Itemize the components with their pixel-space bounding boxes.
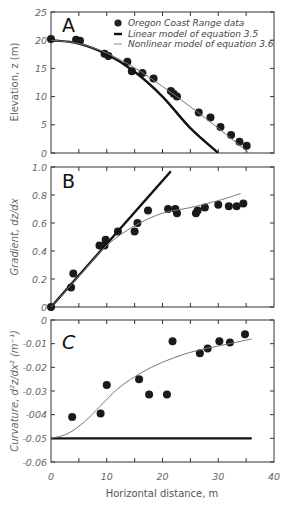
data-point xyxy=(225,202,233,210)
data-point xyxy=(103,381,111,389)
nonlinear-model-curve xyxy=(51,40,249,153)
x-tick-label: 30 xyxy=(212,471,224,482)
linear-model-line xyxy=(51,40,218,153)
y-tick-label: 0 xyxy=(41,148,47,159)
y-axis-label-curvature: Curvature, d²z/dx² (m⁻¹) xyxy=(9,330,20,452)
data-point xyxy=(97,409,105,417)
y-tick-label: 0.4 xyxy=(32,246,47,257)
y-tick-label: 10 xyxy=(35,91,47,102)
y-tick-label: -0.03 xyxy=(22,386,47,397)
x-tick-label: 40 xyxy=(268,471,280,482)
data-point xyxy=(69,269,77,277)
y-tick-label: 25 xyxy=(35,7,47,18)
data-point xyxy=(163,391,171,399)
data-point xyxy=(131,227,139,235)
legend: Oregon Coast Range data Linear model of … xyxy=(114,18,274,49)
y-tick-label: 0 xyxy=(41,302,47,313)
y-tick-label: -0.06 xyxy=(22,457,47,468)
y-tick-label: 0.2 xyxy=(32,274,47,285)
panel-label-c: C xyxy=(62,331,76,353)
data-point xyxy=(68,413,76,421)
y-tick-label: 0.8 xyxy=(32,190,47,201)
data-point xyxy=(194,206,202,214)
data-point xyxy=(214,201,222,209)
x-axis-label: Horizontal distance, m xyxy=(106,488,219,499)
data-point xyxy=(235,138,243,146)
plot-frame xyxy=(51,167,274,307)
y-tick-label: 1.0 xyxy=(32,162,47,173)
data-point xyxy=(135,375,143,383)
y-tick-label: -0.05 xyxy=(22,433,47,444)
legend-linear-label: Linear model of equation 3.5 xyxy=(128,29,258,39)
x-tick-label: 20 xyxy=(156,471,168,482)
x-tick-label: 10 xyxy=(101,471,113,482)
legend-nonlinear-label: Nonlinear model of equation 3.6 xyxy=(128,39,274,49)
nonlinear-model-curve xyxy=(51,339,252,438)
figure: 0510152025 00.20.40.60.81.0 -0.06-0.05-0… xyxy=(0,0,282,505)
y-tick-label: -0.02 xyxy=(22,362,47,373)
y-tick-label: 20 xyxy=(35,35,47,46)
y-tick-label: 15 xyxy=(35,63,47,74)
data-point xyxy=(227,131,235,139)
legend-data-label: Oregon Coast Range data xyxy=(128,18,244,28)
y-axis-label-gradient: Gradient, dz/dx xyxy=(9,198,20,275)
y-tick-label: 0 xyxy=(41,315,47,326)
panel-label-a: A xyxy=(62,14,75,36)
data-point xyxy=(215,337,223,345)
y-tick-label: -004 xyxy=(25,409,47,420)
panel-label-b: B xyxy=(62,170,75,192)
data-point xyxy=(47,35,55,43)
y-axis-label-elevation: Elevation, z (m) xyxy=(9,43,20,122)
data-point xyxy=(239,199,247,207)
y-tick-label: -0.01 xyxy=(22,338,47,349)
data-point xyxy=(144,206,152,214)
x-tick-label: 0 xyxy=(48,471,54,482)
data-point xyxy=(169,337,177,345)
data-point xyxy=(145,391,153,399)
y-tick-label: 5 xyxy=(41,119,47,130)
legend-dot-icon xyxy=(114,19,121,26)
y-tick-label: 0.6 xyxy=(32,218,47,229)
data-point xyxy=(241,330,249,338)
